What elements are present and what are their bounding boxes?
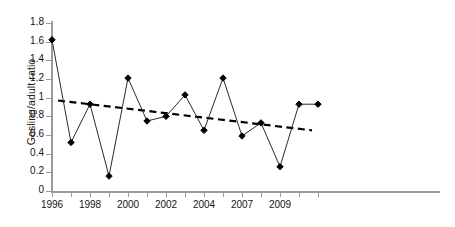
cropped-caption (250, 221, 455, 227)
chart-figure: Gosling/adult ratio 00.20.40.60.811.21.4… (0, 0, 455, 227)
data-point (239, 133, 245, 139)
data-point (220, 75, 226, 81)
data-point (277, 164, 283, 170)
data-line-group (52, 40, 318, 176)
data-point (296, 101, 302, 107)
data-point (87, 101, 93, 107)
data-point (201, 127, 207, 133)
data-point (125, 75, 131, 81)
data-markers (49, 37, 321, 180)
data-point (68, 139, 74, 145)
data-line (52, 40, 318, 176)
data-point (49, 37, 55, 43)
data-point (144, 118, 150, 124)
chart-plot-area (0, 0, 455, 227)
data-point (315, 101, 321, 107)
data-point (106, 173, 112, 179)
